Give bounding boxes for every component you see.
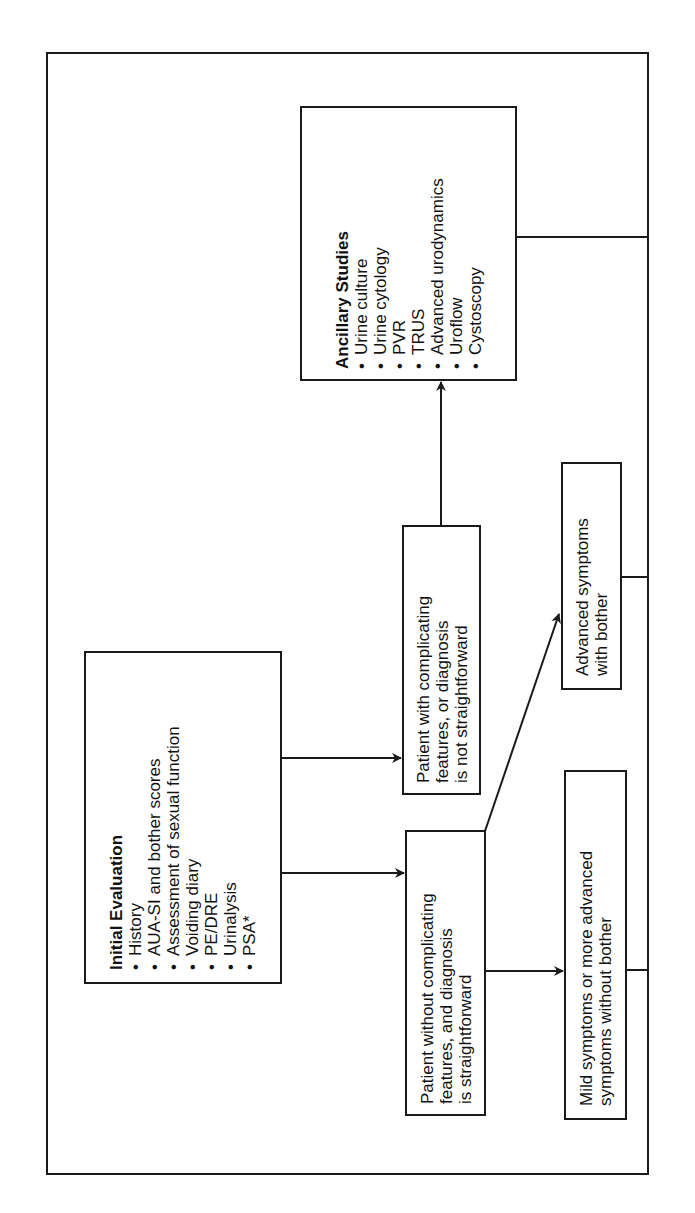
initial-item-voiding-diary: Voiding diary <box>183 658 202 970</box>
advanced-symptoms-box: Advanced symptoms with bother <box>561 462 622 690</box>
ancillary-item-advanced-urodynamics: Advanced urodynamics <box>428 113 447 369</box>
initial-item-history: History <box>126 658 145 970</box>
complicating-line-3: is not straightforward <box>451 529 470 783</box>
ancillary-item-urine-cytology: Urine cytology <box>371 113 390 369</box>
complicating-features-box: Patient with complicating features, or d… <box>402 525 481 795</box>
complicating-line-1: Patient with complicating <box>413 529 432 783</box>
initial-item-pe-dre: PE/DRE <box>202 658 221 970</box>
edge-straightforward-to-advanced <box>483 614 559 837</box>
complicating-line-2: features, or diagnosis <box>432 529 451 783</box>
complicating-features-content: Patient with complicating features, or d… <box>413 529 470 791</box>
mild-symptoms-box: Mild symptoms or more advanced symptoms … <box>564 770 627 1120</box>
straightforward-line-1: Patient without complicating <box>417 834 436 1104</box>
ancillary-studies-title: Ancillary Studies <box>333 113 352 369</box>
mild-symptoms-content: Mild symptoms or more advanced symptoms … <box>577 774 615 1116</box>
ancillary-studies-content: Ancillary Studies Urine culture Urine cy… <box>333 113 485 375</box>
straightforward-content: Patient without complicating features, a… <box>417 834 474 1112</box>
advanced-line-2: with bother <box>592 466 611 676</box>
straightforward-line-2: features, and diagnosis <box>436 834 455 1104</box>
initial-item-sexual-function: Assessment of sexual function <box>164 658 183 970</box>
ancillary-studies-box: Ancillary Studies Urine culture Urine cy… <box>300 106 517 381</box>
mild-line-2: symptoms without bother <box>596 774 615 1106</box>
ancillary-item-trus: TRUS <box>409 113 428 369</box>
initial-evaluation-title: Initial Evaluation <box>107 658 126 970</box>
ancillary-item-urine-culture: Urine culture <box>352 113 371 369</box>
initial-evaluation-box: Initial Evaluation History AUA-SI and bo… <box>84 651 282 984</box>
ancillary-item-uroflow: Uroflow <box>447 113 466 369</box>
initial-evaluation-content: Initial Evaluation History AUA-SI and bo… <box>107 658 259 978</box>
advanced-symptoms-content: Advanced symptoms with bother <box>573 466 611 686</box>
initial-item-urinalysis: Urinalysis <box>221 658 240 970</box>
mild-line-1: Mild symptoms or more advanced <box>577 774 596 1106</box>
ancillary-item-cystoscopy: Cystoscopy <box>466 113 485 369</box>
ancillary-item-pvr: PVR <box>390 113 409 369</box>
initial-item-aua-si: AUA-SI and bother scores <box>145 658 164 970</box>
straightforward-box: Patient without complicating features, a… <box>405 830 486 1116</box>
advanced-line-1: Advanced symptoms <box>573 466 592 676</box>
straightforward-line-3: is straightforward <box>455 834 474 1104</box>
initial-item-psa: PSA* <box>240 658 259 970</box>
